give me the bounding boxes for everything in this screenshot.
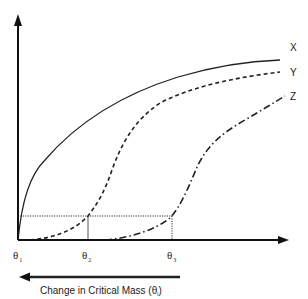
threshold-lines (18, 216, 172, 240)
curve-y (30, 72, 280, 240)
tick-theta2: θ2 (82, 249, 91, 263)
x-tick-labels: θ1 θ2 θ3 (13, 249, 176, 263)
direction-arrowhead-left-icon (19, 273, 30, 282)
x-axis-arrowhead (278, 236, 289, 244)
curves (18, 60, 285, 240)
axes (14, 14, 289, 244)
series-labels: X Y Z (290, 42, 297, 102)
tick-theta1: θ1 (13, 249, 22, 263)
curve-x (18, 60, 280, 240)
x-axis-caption: Change in Critical Mass (θi) (40, 285, 162, 297)
series-label-z: Z (290, 91, 296, 102)
direction-arrow (19, 273, 180, 282)
tick-theta3: θ3 (167, 249, 176, 263)
critical-mass-chart: X Y Z θ1 θ2 θ3 Change in Critical Mass (… (0, 0, 308, 299)
series-label-y: Y (290, 67, 297, 78)
y-axis-arrowhead (14, 14, 22, 26)
curve-z (105, 96, 285, 240)
series-label-x: X (290, 42, 297, 53)
